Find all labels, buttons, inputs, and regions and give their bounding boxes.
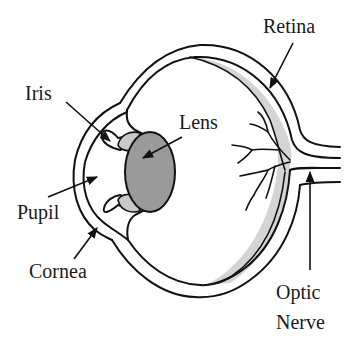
label-iris: Iris [25,83,52,103]
cornea-arrow [74,228,97,259]
label-retina: Retina [263,16,315,36]
iris-arrow [66,102,110,141]
label-optic: Optic [276,282,320,302]
label-pupil: Pupil [17,202,59,222]
label-nerve: Nerve [276,312,325,332]
pupil-arrow [48,177,97,197]
cornea-outer [74,103,120,240]
label-lens: Lens [179,112,218,132]
optic-nerve-upper [290,168,340,170]
retina-layer [190,57,291,285]
label-cornea: Cornea [29,261,87,281]
optic-nerve-lower [300,182,340,185]
retina-arrow [270,43,293,88]
